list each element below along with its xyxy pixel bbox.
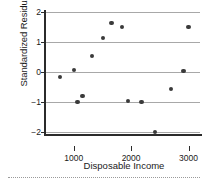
gridline-y-2 (45, 12, 200, 13)
data-point (90, 54, 94, 58)
y-tick-label: 0 (21, 68, 41, 77)
y-tick-mark-2 (41, 12, 46, 13)
gridline-y--1 (45, 102, 200, 103)
data-point (186, 25, 190, 29)
data-point (139, 100, 143, 104)
data-point (181, 69, 185, 73)
data-point (120, 25, 124, 29)
plot-area: 210−1−2100020003000 (45, 12, 200, 132)
data-point (101, 36, 105, 40)
data-point (80, 94, 84, 98)
scatter-plot-figure: Standardized Residuals 210−1−21000200030… (0, 0, 207, 184)
x-axis-label: Disposable Income (44, 160, 204, 171)
data-point (109, 21, 113, 25)
data-point (58, 75, 62, 79)
gridline-y--2 (45, 132, 200, 133)
data-point (72, 68, 76, 72)
y-tick-label: −1 (21, 98, 41, 107)
x-tick-mark-3000 (189, 146, 190, 151)
data-point (75, 100, 79, 104)
y-tick-label: 1 (21, 38, 41, 47)
x-axis-line (44, 134, 202, 136)
gridline-y-1 (45, 42, 200, 43)
y-tick-label: −2 (21, 128, 41, 137)
x-tick-mark-1000 (74, 146, 75, 151)
data-point (169, 87, 173, 91)
y-tick-mark-0 (41, 72, 46, 73)
y-tick-mark-1 (41, 42, 46, 43)
gridline-y-0 (45, 72, 200, 73)
y-tick-mark--1 (41, 102, 46, 103)
x-tick-mark-2000 (131, 146, 132, 151)
y-tick-label: 2 (21, 8, 41, 17)
page-divider (8, 177, 200, 179)
y-tick-mark--2 (41, 132, 46, 133)
